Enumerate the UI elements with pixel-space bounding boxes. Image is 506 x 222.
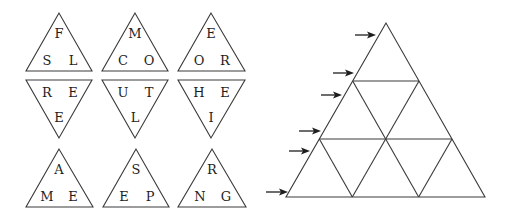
letter-tile-t5: UTL	[102, 80, 168, 138]
tile-letter-bottom: E	[54, 110, 64, 125]
letter-tile-t8: SEP	[103, 149, 169, 207]
puzzle-grid	[286, 23, 485, 197]
tile-letter-left: U	[118, 85, 129, 100]
tile-letter-right: T	[145, 85, 154, 100]
tile-letter-right: E	[220, 85, 230, 100]
tile-letter-left: O	[194, 53, 205, 68]
letter-tile-t9: RNG	[178, 149, 246, 207]
arrow-icon	[355, 32, 376, 39]
tile-letter-left: C	[118, 53, 128, 68]
letter-tiles: FSLMCOEORREEUTLHEIAMESEPRNG	[26, 13, 246, 207]
grid-outline	[286, 23, 485, 197]
tile-letter-top: F	[54, 26, 63, 41]
tile-letter-top: R	[207, 162, 218, 177]
arrow-icon	[299, 128, 321, 135]
tile-letter-right: E	[68, 85, 78, 100]
letter-tile-t1: FSL	[26, 13, 92, 71]
letter-tile-t7: AME	[26, 149, 93, 207]
tile-letter-top: A	[53, 162, 64, 177]
arrow-icon	[333, 70, 354, 77]
tile-outline	[103, 149, 169, 207]
tile-outline	[102, 13, 168, 71]
tile-letter-top: S	[132, 162, 141, 177]
tile-letter-top: M	[128, 26, 141, 41]
tile-outline	[26, 13, 92, 71]
tile-letter-bottom: I	[208, 110, 213, 125]
tile-outline	[26, 149, 93, 207]
tile-letter-right: E	[68, 189, 78, 204]
tile-letter-right: R	[220, 53, 231, 68]
triangle-puzzle-diagram: FSLMCOEORREEUTLHEIAMESEPRNG	[0, 0, 506, 222]
tile-letter-left: N	[194, 189, 205, 204]
tile-letter-right: P	[146, 189, 155, 204]
tile-letter-right: G	[221, 189, 231, 204]
tile-letter-left: R	[42, 85, 53, 100]
letter-tile-t4: REE	[26, 80, 92, 138]
tile-letter-top: E	[206, 26, 216, 41]
tile-letter-left: H	[193, 85, 204, 100]
arrow-icon	[266, 189, 288, 196]
tile-letter-left: S	[43, 53, 52, 68]
tile-outline	[178, 13, 245, 71]
tile-letter-left: E	[119, 189, 129, 204]
tile-letter-bottom: L	[131, 110, 140, 125]
tile-outline	[178, 149, 246, 207]
tile-letter-left: M	[40, 189, 53, 204]
tile-letter-right: L	[69, 53, 78, 68]
arrow-icon	[289, 148, 310, 155]
letter-tile-t6: HEI	[178, 80, 245, 138]
letter-tile-t2: MCO	[102, 13, 168, 71]
arrow-icon	[321, 92, 342, 99]
tile-letter-right: O	[144, 53, 155, 68]
letter-tile-t3: EOR	[178, 13, 245, 71]
